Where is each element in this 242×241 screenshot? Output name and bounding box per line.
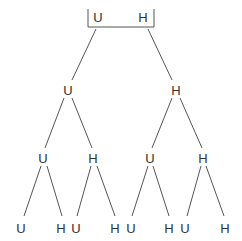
node-l1-h: H: [171, 83, 180, 98]
root-label-h: H: [138, 10, 147, 25]
node-l3-6: H: [164, 221, 173, 236]
node-l3-3: U: [71, 221, 80, 236]
node-l3-2: H: [56, 221, 65, 236]
root-bracket: U H: [88, 9, 154, 27]
root-label-u: U: [93, 10, 102, 25]
node-l3-4: H: [110, 221, 119, 236]
tree-edges: [24, 29, 224, 216]
level-2-nodes: U H U H: [38, 151, 207, 166]
node-l3-5: U: [126, 221, 135, 236]
node-l2-hh: H: [198, 151, 207, 166]
node-l1-u: U: [63, 83, 72, 98]
node-l2-hu: U: [145, 151, 154, 166]
node-l3-1: U: [16, 221, 25, 236]
node-l2-uu: U: [38, 151, 47, 166]
tree-diagram: U H U H U H U H U H U H U H U: [0, 0, 242, 241]
node-l3-8: H: [220, 221, 229, 236]
node-l3-7: U: [180, 221, 189, 236]
node-l2-uh: H: [88, 151, 97, 166]
level-3-nodes: U H U H U H U H: [16, 221, 229, 236]
level-1-nodes: U H: [63, 83, 180, 98]
